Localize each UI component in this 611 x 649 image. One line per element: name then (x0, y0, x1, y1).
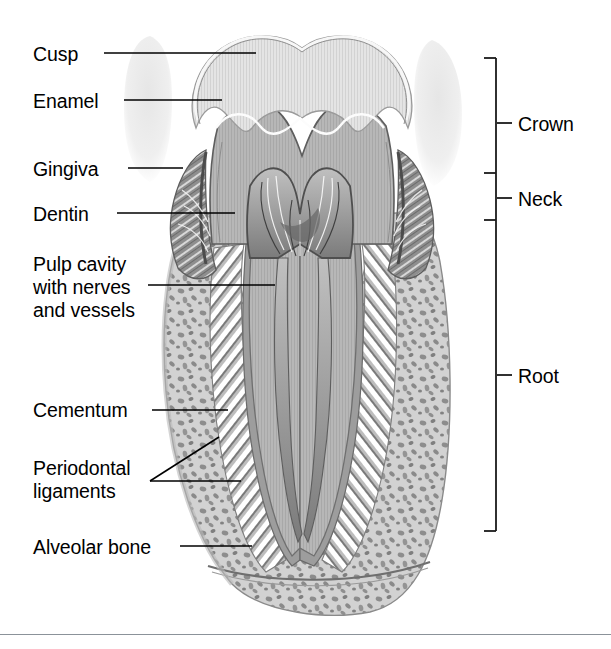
neighbor-tooth-right (414, 40, 462, 186)
neighbor-tooth-left (124, 36, 172, 182)
label-gingiva: Gingiva (33, 158, 98, 181)
footer-rule (0, 634, 611, 635)
label-neck: Neck (518, 188, 562, 211)
label-pulp-cavity: Pulp cavity with nerves and vessels (33, 253, 135, 322)
tooth-anatomy-figure: CuspEnamelGingivaDentinCementumAlveolar … (0, 0, 611, 649)
label-periodontal-ligaments: Periodontal ligaments (33, 457, 131, 503)
label-cementum: Cementum (33, 399, 128, 422)
label-root: Root (518, 365, 559, 388)
crown-neck-root-bracket (484, 58, 512, 531)
label-dentin: Dentin (33, 203, 89, 226)
label-crown: Crown (518, 113, 574, 136)
label-alveolarbone: Alveolar bone (33, 536, 151, 559)
label-cusp: Cusp (33, 43, 78, 66)
label-enamel: Enamel (33, 90, 99, 113)
